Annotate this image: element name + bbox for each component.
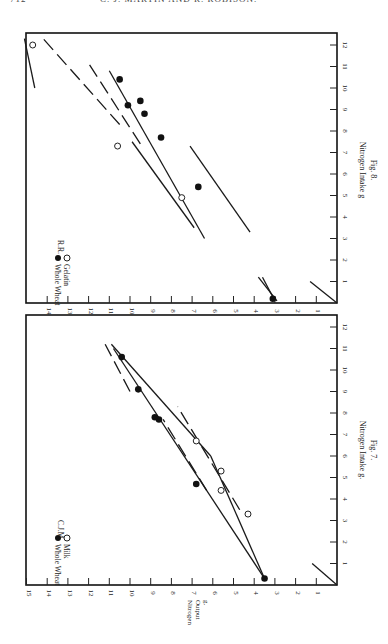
fig7-point-filled	[118, 354, 125, 361]
fig8-y-tick-label: 9	[149, 309, 157, 313]
fig8-point-filled	[137, 98, 144, 105]
fig7-x-tick-label: 1	[341, 562, 349, 566]
fig7-legend-marker	[64, 535, 70, 541]
fig7-y-axis-label: NitrogenOutputg.	[186, 600, 210, 625]
fig7-x-tick-label: 3	[341, 519, 349, 523]
fig7-y-tick-label: 8	[169, 591, 177, 595]
fig8-y-tick-label: 8	[169, 309, 177, 313]
fig7-caption: Nitrogen Intake g.Fig. 7.	[358, 421, 378, 479]
fig7-y-tick-label: 12	[87, 590, 95, 598]
fig8-figure-label: Fig. 8.	[369, 160, 378, 181]
fig8-x-tick-label: 3	[341, 237, 349, 241]
fig7-point-open	[193, 438, 199, 444]
fig7-x-tick-label: 9	[341, 390, 349, 394]
fig7-x-axis-label: Nitrogen Intake g.	[358, 421, 367, 479]
fig8-point-open	[115, 143, 121, 149]
fig8-y-tick-label: 11	[107, 308, 115, 315]
fig7-y-tick-label: 9	[149, 591, 157, 595]
fig7-x-tick-label: 6	[341, 454, 349, 458]
fig8-point-filled	[195, 184, 202, 191]
fig7-legend-label: Whole Wheat	[53, 544, 62, 586]
fig8-point-filled	[116, 76, 123, 83]
fig7-point-open	[218, 468, 224, 474]
fig7-x-tick-label: 8	[341, 411, 349, 415]
fig8-x-tick-label: 5	[341, 194, 349, 198]
fig8-x-tick-label: 1	[341, 280, 349, 284]
fig7-x-tick-label: 10	[341, 367, 349, 375]
fig8-y-tick-label: 14	[45, 308, 53, 316]
fig7-point-filled	[261, 575, 268, 582]
fig7-x-tick-label: 12	[341, 324, 349, 332]
fig7-x-tick-label: 5	[341, 476, 349, 480]
fig8-x-axis-label: Nitrogen Intake g	[358, 142, 367, 198]
fig8-fit-line-4	[132, 142, 194, 228]
fig8-x-tick-label: 7	[341, 151, 349, 155]
fig8-x-tick-label: 11	[341, 63, 349, 70]
fig8-y-tick-label: 3	[273, 309, 281, 313]
fig8-point-open	[30, 42, 36, 48]
fig7-y-tick-label: 3	[273, 591, 281, 595]
fig8-fit-line-2	[109, 71, 204, 239]
fig8-y-tick-label: 7	[190, 309, 198, 313]
fig8-y-tick-label: 1	[314, 309, 322, 313]
fig7-y-tick-label: 2	[294, 591, 302, 595]
fig7-y-tick-label: 4	[252, 591, 260, 595]
fig7-y-axis-label-word: g.	[202, 600, 210, 606]
fig7-fit-line-4	[163, 419, 206, 490]
fig8-legend-marker	[55, 255, 61, 261]
fig8-x-tick-label: 12	[341, 42, 349, 50]
fig8-y-tick-label: 6	[211, 309, 219, 313]
fig8-x-tick-label: 4	[341, 215, 349, 219]
fig8-y-tick-label: 12	[87, 308, 95, 316]
fig7-fit-line-0	[113, 349, 264, 579]
fig7-y-tick-label: 10	[128, 590, 136, 598]
fig8-subject-label: R.R.	[56, 240, 65, 254]
fig8-y-tick-label: 4	[252, 309, 260, 313]
fig8-x-tick-label: 6	[341, 172, 349, 176]
fig8-x-tick-label: 9	[341, 108, 349, 112]
fig8-legend-label: Gelatin	[62, 264, 71, 286]
fig8-legend-marker	[64, 255, 70, 261]
fig7-legend-label: Milk	[62, 544, 71, 559]
fig7-legend-marker	[55, 535, 61, 541]
figures-canvas: 1234567891011121234567891011121314R.R.Wh…	[0, 0, 388, 644]
fig7-y-tick-label: 13	[66, 590, 74, 598]
fig8-point-filled	[158, 134, 165, 141]
fig8-x-tick-label: 10	[341, 85, 349, 93]
fig7-y-tick-label: 1	[314, 591, 322, 595]
fig8-legend-label: Whole Wheat	[53, 264, 62, 306]
fig7-y-tick-label: 14	[45, 590, 53, 598]
fig7-point-filled	[135, 386, 142, 393]
fig7-figure-label: Fig. 7.	[369, 440, 378, 461]
fig7-y-axis-label-word: Nitrogen	[186, 600, 194, 625]
fig8-point-filled	[141, 111, 148, 118]
fig8-y-tick-label: 5	[232, 309, 240, 313]
fig7-point-open	[218, 487, 224, 493]
fig7-y-tick-label: 7	[190, 591, 198, 595]
fig7-y-tick-label: 5	[232, 591, 240, 595]
fig7-point-open	[245, 511, 251, 517]
fig8-x-tick-label: 2	[341, 258, 349, 262]
fig8-frame	[26, 33, 337, 303]
fig7-x-tick-label: 11	[341, 345, 349, 352]
fig8-fit-line-6	[43, 39, 120, 125]
fig8-y-tick-label: 2	[294, 309, 302, 313]
fig8-plot: 1234567891011121234567891011121314R.R.Wh…	[24, 39, 378, 315]
fig8-x-tick-label: 8	[341, 129, 349, 133]
fig8-fit-line-8	[310, 282, 337, 304]
fig8-point-open	[179, 195, 185, 201]
fig8-y-tick-label: 13	[66, 308, 74, 316]
fig8-point-filled	[270, 295, 277, 302]
fig8-fit-line-5	[87, 60, 141, 144]
fig7-x-tick-label: 7	[341, 433, 349, 437]
fig7-y-axis-label-word: Output	[194, 600, 202, 620]
fig7-x-tick-label: 2	[341, 540, 349, 544]
fig7-plot: 123456789101112123456789101112131415C.J.…	[25, 324, 379, 626]
fig7-point-filled	[152, 414, 159, 421]
fig7-point-filled	[193, 481, 200, 488]
fig8-y-tick-label: 10	[128, 308, 136, 316]
fig7-y-tick-label: 6	[211, 591, 219, 595]
fig8-caption: Nitrogen Intake gFig. 8.	[358, 142, 378, 198]
fig8-point-filled	[125, 102, 132, 109]
fig7-y-tick-label: 15	[25, 590, 33, 598]
